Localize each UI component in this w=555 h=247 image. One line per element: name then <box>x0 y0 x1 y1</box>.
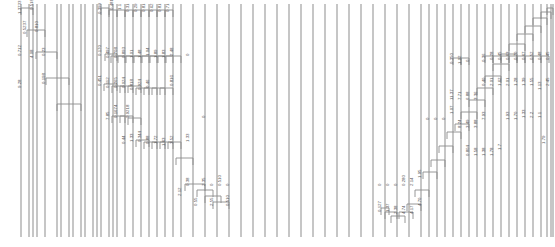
merge-height-label: 1.93 <box>505 111 510 120</box>
merge-height-label: 0.198 <box>41 72 46 84</box>
merge-height-label: 1.38 <box>481 147 486 156</box>
merge-height-label: 0.70 <box>513 51 518 60</box>
merge-bracket <box>391 216 405 223</box>
merge-height-label: 1.04 <box>145 47 150 56</box>
merge-height-label: 4.08 <box>29 49 34 58</box>
merge-height-label: 4.17 <box>409 205 414 214</box>
merge-height-label: 1.28 <box>513 77 518 86</box>
merge-height-label: 0.712 <box>17 44 22 56</box>
merge-height-label: 1.1 <box>117 3 122 10</box>
merge-bracket <box>423 172 437 179</box>
merge-height-label: 0.38 <box>185 177 190 186</box>
merge-bracket <box>128 118 141 125</box>
merge-height-label: 1.1 <box>537 111 542 118</box>
merge-bracket <box>533 18 547 25</box>
merge-height-label: 1.02 <box>457 55 462 64</box>
merge-height-label: 0.112 <box>105 77 110 88</box>
merge-height-label: 0.344 <box>137 130 142 142</box>
merge-height-label: 1.63 <box>161 137 166 146</box>
merge-height-label: 0.924 <box>137 78 142 90</box>
merge-height-label: 1.33 <box>185 133 190 142</box>
merge-height-label: 2.35 <box>201 177 206 186</box>
merge-height-label: 0.350 <box>449 52 454 64</box>
merge-height-label: 0.55 <box>193 197 198 206</box>
merge-height-label: 0.127 <box>377 200 382 212</box>
merge-height-label: 1.70 <box>513 111 518 120</box>
merge-height-label: 0.46 <box>145 79 150 88</box>
merge-height-label: 11.37 <box>449 89 454 100</box>
merge-height-label: 0.510 <box>217 174 222 186</box>
merge-height-label: 0.44 <box>121 135 126 144</box>
merge-height-label: 0.280 <box>401 174 406 186</box>
merge-height-label: 0.45 <box>545 51 550 60</box>
merge-height-label: 1.78 <box>489 147 494 156</box>
merge-height-label: 2.01 <box>505 77 510 86</box>
merge-height-label: 0.88 <box>145 135 150 144</box>
merge-height-label: 1.62 <box>497 77 502 86</box>
merge-bracket <box>144 88 157 95</box>
merge-height-label: 3.88 <box>473 119 478 128</box>
merge-height-label: 3.49 <box>465 119 470 128</box>
merge-height-label: 8.24 <box>457 119 462 128</box>
merge-height-label: 0 <box>385 183 390 186</box>
merge-bracket <box>117 10 125 17</box>
merge-height-label: 0.481 <box>109 0 114 10</box>
merge-height-label: 1.48 <box>137 49 142 58</box>
merge-height-label: 2.38 <box>393 205 398 214</box>
merge-height-label: 2.45 <box>545 77 550 86</box>
merge-height-label: 1.83 <box>161 49 166 58</box>
merge-height-label: 2.2 <box>529 111 534 118</box>
merge-bracket <box>36 52 57 59</box>
merge-height-label: 0.71 <box>165 3 170 12</box>
merge-bracket <box>547 8 553 15</box>
merge-height-label: 1.07 <box>449 105 454 114</box>
merge-height-label: 1.58 <box>473 147 478 156</box>
merge-height-label: 2.01 <box>489 77 494 86</box>
merge-height-label: 7.93 <box>481 111 486 120</box>
merge-height-label: 2.12 <box>177 187 182 196</box>
merge-height-label: 7.85 <box>105 111 110 120</box>
merge-height-label: 0.67 <box>521 51 526 60</box>
merge-height-label: 1.33 <box>521 109 526 118</box>
merge-height-label: 0.23 <box>41 47 46 56</box>
merge-height-label: 1.95 <box>417 169 422 178</box>
merge-height-label: 0.810 <box>34 20 39 32</box>
merge-height-label: 1.55 <box>529 77 534 86</box>
merge-height-label: 0.399 <box>97 2 102 14</box>
merge-height-label: 0.804 <box>465 144 470 156</box>
merge-height-label: 0.818 <box>129 78 134 90</box>
merge-height-label: 0.62 <box>149 3 154 12</box>
merge-height-label: 1.89 <box>153 49 158 58</box>
merge-height-label: 0.81 <box>157 3 162 12</box>
merge-height-label: 0.518 <box>29 0 34 10</box>
merge-height-label: 4.74 <box>401 205 406 214</box>
dendrogram-canvas: 1.37330.5180.52370.8100.7124.080.239.280… <box>0 0 555 247</box>
merge-height-label: 0.893 <box>121 46 126 58</box>
merge-height-label: 2.48 <box>169 47 174 56</box>
merge-height-label: 3.36 <box>473 91 478 100</box>
merge-height-label: 0.265 <box>113 76 118 88</box>
merge-height-label: 0.1674 <box>113 104 118 118</box>
merge-height-label: 0 <box>185 53 190 56</box>
merge-height-label: 1.39 <box>521 77 526 86</box>
merge-height-label: 0.708 <box>113 46 118 58</box>
merge-height-label: 0.29 <box>133 3 138 12</box>
merge-height-label: 1.7 <box>497 143 502 150</box>
merge-bracket <box>160 88 173 95</box>
merge-height-label: 0.816 <box>169 74 174 86</box>
merge-height-label: 6.88 <box>465 91 470 100</box>
merge-bracket <box>176 158 193 165</box>
merge-height-label: 0.024 <box>121 76 126 88</box>
merge-bracket <box>431 160 445 167</box>
merge-height-label: 7.71 <box>457 91 462 100</box>
merge-height-label: 2.55 <box>209 197 214 206</box>
merge-height-label: 1.33 <box>129 133 134 142</box>
merge-height-label: 3.52 <box>169 135 174 144</box>
merge-height-label: 1.13 <box>537 81 542 90</box>
merge-height-label: 2.14 <box>409 177 414 186</box>
merge-height-label: 1.01 <box>129 49 134 58</box>
merge-height-label: 1.3733 <box>17 0 22 14</box>
merge-bracket <box>152 88 165 95</box>
merge-height-label: 0.36 <box>481 53 486 62</box>
dendrogram-figure: 1.37330.5180.52370.8100.7124.080.239.280… <box>0 0 555 247</box>
